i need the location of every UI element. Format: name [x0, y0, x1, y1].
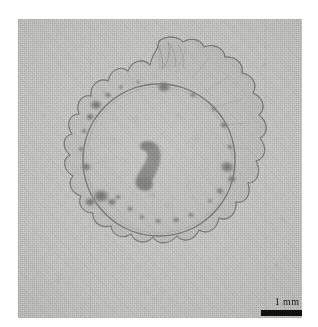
micrograph-photo-plate: 1 mm — [18, 19, 302, 318]
scale-bar-rule — [261, 310, 302, 316]
figure-root: 1 mm — [0, 0, 318, 327]
scale-bar-label: 1 mm — [261, 296, 302, 307]
scale-bar: 1 mm — [261, 296, 302, 316]
specimen-illustration — [18, 19, 302, 318]
